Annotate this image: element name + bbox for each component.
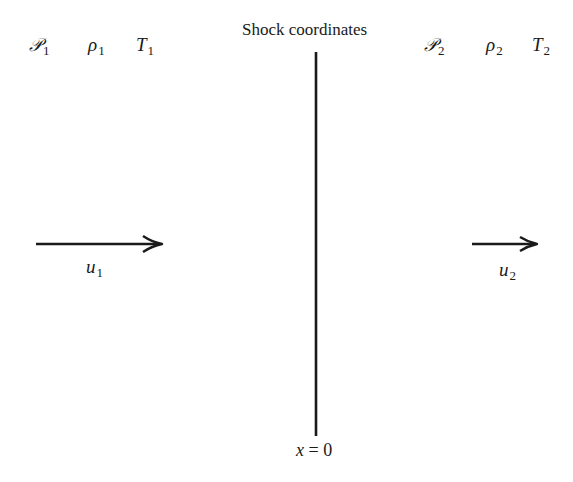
subscript: 1 [148, 43, 155, 58]
downstream-density-label: ρ2 [486, 35, 503, 54]
subscript: 1 [43, 43, 50, 58]
subscript: 1 [97, 265, 104, 280]
pressure-symbol: 𝒫 [424, 34, 437, 55]
velocity-symbol: u [86, 256, 96, 277]
temperature-symbol: T [136, 34, 147, 55]
pressure-symbol: 𝒫 [29, 34, 42, 55]
origin-value: 0 [323, 440, 332, 460]
diagram-lines [0, 0, 573, 482]
subscript: 2 [510, 268, 517, 283]
subscript: 2 [544, 43, 551, 58]
subscript: 2 [438, 43, 445, 58]
velocity-symbol: u [499, 259, 509, 280]
subscript: 1 [98, 43, 105, 58]
diagram-title: Shock coordinates [242, 20, 367, 40]
upstream-temperature-label: T1 [136, 35, 154, 54]
downstream-temperature-label: T2 [532, 35, 550, 54]
subscript: 2 [496, 43, 503, 58]
downstream-velocity-label: u2 [499, 260, 516, 279]
density-symbol: ρ [88, 34, 97, 55]
shock-origin-label: x = 0 [296, 440, 332, 461]
upstream-density-label: ρ1 [88, 35, 105, 54]
upstream-velocity-arrow [36, 236, 162, 252]
upstream-pressure-label: 𝒫1 [29, 35, 50, 54]
downstream-pressure-label: 𝒫2 [424, 35, 445, 54]
density-symbol: ρ [486, 34, 495, 55]
downstream-velocity-arrow [472, 237, 537, 251]
upstream-velocity-label: u1 [86, 257, 103, 276]
equals-sign: = [304, 440, 323, 460]
shock-diagram: Shock coordinates 𝒫1 ρ1 T1 𝒫2 ρ2 T2 u1 u… [0, 0, 573, 482]
temperature-symbol: T [532, 34, 543, 55]
x-variable: x [296, 440, 304, 460]
